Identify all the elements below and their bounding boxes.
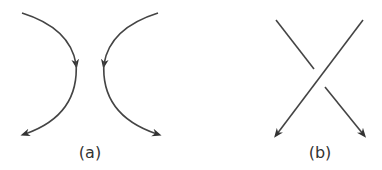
- right-arc-upper: [104, 13, 158, 64]
- diagram-a-label: (a): [79, 143, 101, 162]
- diagram-b-label: (b): [309, 143, 332, 162]
- under-strand-lower: [325, 87, 363, 134]
- left-arc-upper: [22, 13, 76, 64]
- diagram-b: [276, 20, 363, 134]
- left-arc-lower: [25, 62, 76, 134]
- under-strand-upper: [276, 20, 314, 69]
- diagram-a: [22, 13, 158, 134]
- right-arc-lower: [104, 62, 157, 134]
